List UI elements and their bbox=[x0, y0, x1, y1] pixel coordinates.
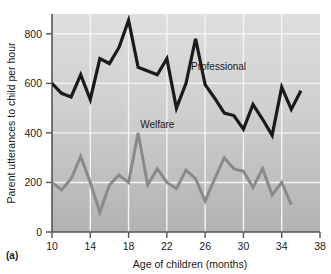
x-tick-label: 10 bbox=[46, 240, 58, 252]
figure-panel: 0200400600800 1014182226303438 Professio… bbox=[0, 0, 331, 274]
plot-background bbox=[52, 14, 320, 232]
figure-caption: (a) bbox=[6, 250, 18, 261]
x-axis-ticks bbox=[52, 232, 320, 238]
x-tick-label: 18 bbox=[123, 240, 135, 252]
y-tick-label: 0 bbox=[36, 226, 42, 238]
y-tick-label: 400 bbox=[24, 127, 42, 139]
x-axis-tick-labels: 1014182226303438 bbox=[46, 240, 326, 252]
y-tick-label: 800 bbox=[24, 28, 42, 40]
series-label-welfare: Welfare bbox=[140, 119, 175, 130]
series-label-professional: Professional bbox=[191, 61, 246, 72]
x-tick-label: 38 bbox=[314, 240, 326, 252]
y-axis-ticks bbox=[46, 34, 52, 232]
y-axis-tick-labels: 0200400600800 bbox=[24, 28, 42, 238]
x-tick-label: 14 bbox=[84, 240, 96, 252]
x-tick-label: 30 bbox=[238, 240, 250, 252]
x-axis-title: Age of children (months) bbox=[133, 258, 247, 270]
x-tick-label: 22 bbox=[161, 240, 173, 252]
x-tick-label: 34 bbox=[276, 240, 288, 252]
y-axis-title: Parent utterances to child per hour bbox=[5, 42, 17, 204]
y-tick-label: 200 bbox=[24, 176, 42, 188]
y-tick-label: 600 bbox=[24, 77, 42, 89]
line-chart: 0200400600800 1014182226303438 Professio… bbox=[0, 0, 331, 274]
x-tick-label: 26 bbox=[199, 240, 211, 252]
